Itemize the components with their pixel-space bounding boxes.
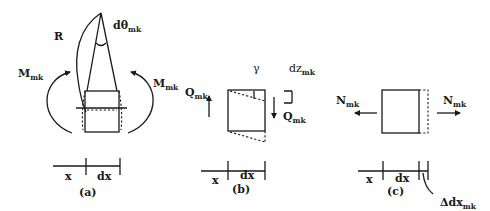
moment-arrow-left (47, 72, 72, 133)
dim-dx-c: dx (395, 172, 410, 185)
moment-arrow-right (128, 72, 153, 133)
radius-arc (77, 13, 101, 112)
radius-label: R (54, 30, 64, 43)
shear-left-label: Qmk (185, 86, 209, 101)
dim-x-b: x (212, 174, 219, 187)
shear-deformed-bottom (230, 132, 265, 142)
deformation-diagram: R dθmk Mmk Mmk x dx (a) γ dzmk Qmk Qmk x… (0, 0, 490, 211)
axial-deformed-edge (419, 90, 428, 133)
elongation-label: Δdxmk (440, 196, 477, 211)
element-a (85, 91, 119, 132)
shear-deformed-top (230, 91, 265, 101)
element-c (382, 90, 419, 133)
panel-c-axial: Nmk Nmk x dx (c) Δdxmk (336, 90, 477, 211)
panel-b-shear: γ dzmk Qmk Qmk x dx (b) (185, 62, 316, 196)
dim-x-c: x (366, 173, 373, 186)
caption-c: (c) (387, 185, 404, 198)
axial-left-label: Nmk (336, 94, 360, 109)
caption-b: (b) (232, 183, 250, 196)
dz-bracket (284, 91, 292, 103)
shear-right-label: Qmk (283, 110, 307, 125)
caption-a: (a) (79, 186, 97, 199)
angle-arc (96, 43, 106, 46)
moment-right-label: Mmk (153, 77, 179, 92)
panel-a-bending: R dθmk Mmk Mmk x dx (a) (18, 13, 179, 199)
moment-left-label: Mmk (18, 67, 44, 82)
dim-x-a: x (65, 170, 72, 183)
dim-dx-a: dx (97, 170, 112, 183)
axial-right-label: Nmk (443, 94, 467, 109)
dz-label: dzmk (289, 62, 316, 77)
dim-dx-b: dx (240, 169, 255, 182)
shear-angle-label: γ (253, 62, 260, 75)
angle-label: dθmk (113, 19, 142, 34)
